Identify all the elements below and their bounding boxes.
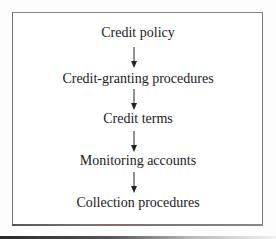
frame-bottom-edge [12, 224, 263, 226]
step-credit-terms: Credit terms [0, 111, 276, 127]
arrow-down-icon [130, 47, 138, 69]
arrow-down-icon [130, 172, 138, 194]
arrow-down-icon [130, 89, 138, 111]
step-credit-granting-procedures: Credit-granting procedures [0, 71, 276, 87]
step-credit-policy: Credit policy [0, 25, 276, 41]
step-collection-procedures: Collection procedures [0, 195, 276, 211]
page-edge-shadow [0, 236, 276, 239]
arrow-down-icon [130, 131, 138, 153]
step-monitoring-accounts: Monitoring accounts [0, 153, 276, 169]
